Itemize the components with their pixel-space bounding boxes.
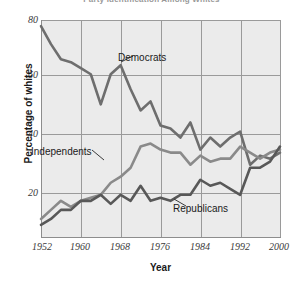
x-tick-1992: 1992 bbox=[218, 241, 262, 252]
x-axis-ticks: 1952 1960 1968 1976 1984 1992 2000 bbox=[0, 0, 303, 287]
x-tick-1968: 1968 bbox=[98, 241, 142, 252]
x-axis-title: Year bbox=[41, 262, 280, 273]
x-tick-1984: 1984 bbox=[178, 241, 222, 252]
x-tick-2000: 2000 bbox=[257, 241, 301, 252]
y-axis-title: Percentage of whites bbox=[23, 39, 34, 189]
x-tick-1960: 1960 bbox=[58, 241, 102, 252]
party-identification-chart: Party Identification Among Whites Democr… bbox=[0, 0, 303, 287]
x-tick-1976: 1976 bbox=[138, 241, 182, 252]
